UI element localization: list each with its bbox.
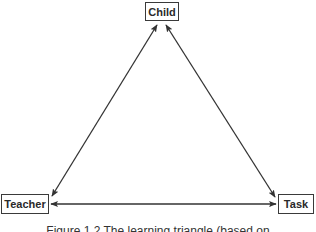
node-child-label: Child [148, 6, 176, 18]
node-teacher-label: Teacher [4, 198, 45, 210]
node-teacher: Teacher [1, 194, 49, 214]
figure-caption: Figure 1.2 The learning triangle (based … [0, 224, 316, 232]
edge-child-teacher [52, 25, 157, 196]
node-child: Child [145, 2, 179, 21]
edge-child-task [166, 25, 275, 197]
node-task-label: Task [284, 198, 308, 210]
node-task: Task [278, 194, 314, 214]
